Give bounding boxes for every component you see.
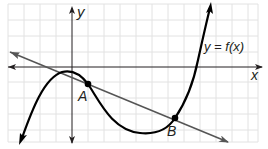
point-a-dot bbox=[85, 81, 92, 88]
x-axis-label: x bbox=[250, 67, 259, 83]
point-b-dot bbox=[172, 115, 179, 122]
curve-f bbox=[22, 8, 210, 138]
curve-label: y = f(x) bbox=[203, 39, 244, 54]
point-b-label: B bbox=[167, 123, 176, 139]
point-a-label: A bbox=[77, 88, 87, 104]
function-graph: y x y = f(x) A B bbox=[0, 0, 268, 149]
grid bbox=[8, 4, 258, 142]
secant-line bbox=[10, 52, 228, 142]
y-axis-label: y bbox=[76, 3, 86, 20]
